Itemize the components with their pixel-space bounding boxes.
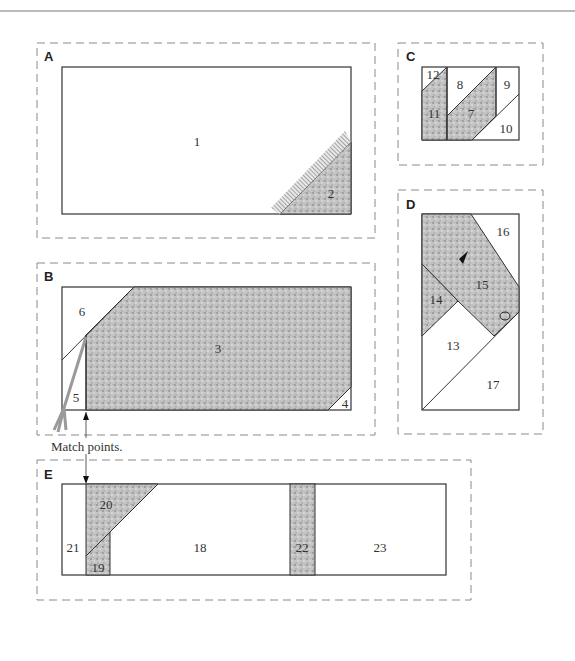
piece-19: 19 [92,560,105,575]
section-a: A 1 2 [37,43,375,238]
section-c: C 12 8 9 11 7 10 [398,43,543,165]
piece-17: 17 [487,377,501,392]
section-d-label: D [406,197,415,212]
piece-20: 20 [100,497,113,512]
piece-22: 22 [296,540,309,555]
piece-18: 18 [194,540,207,555]
match-points-label: Match points. [51,439,123,454]
piece-3: 3 [215,341,222,356]
piece-10: 10 [500,121,513,136]
section-d: D 16 15 14 13 17 [398,190,543,434]
piece-14: 14 [430,292,444,307]
piece-5: 5 [73,390,80,405]
section-b: B 6 3 5 4 [37,263,375,435]
match-points-annotation: Match points. [50,412,130,484]
piece-8: 8 [457,77,464,92]
piece-2: 2 [328,186,335,201]
piece-1: 1 [194,134,201,149]
piece-21: 21 [67,540,80,555]
section-e: E 21 20 19 18 22 23 [37,460,471,600]
piece-13: 13 [447,338,460,353]
quilt-piecing-diagram: A 1 2 C 12 8 9 11 7 10 D 16 [0,0,575,661]
piece-7: 7 [468,106,475,121]
piece-4: 4 [342,396,349,411]
piece-12: 12 [427,67,440,82]
section-a-label: A [44,49,54,64]
piece-6: 6 [79,304,86,319]
section-c-label: C [406,49,416,64]
piece-11: 11 [428,106,441,121]
piece-15: 15 [476,277,489,292]
piece-9: 9 [504,77,511,92]
section-e-label: E [44,467,53,482]
section-b-label: B [44,269,53,284]
piece-16: 16 [497,224,511,239]
piece-23: 23 [374,540,387,555]
